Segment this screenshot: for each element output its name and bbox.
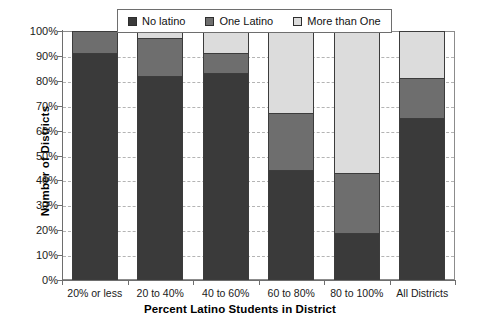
x-axis-tick-label: 40 to 60% [202, 287, 249, 299]
bar-segment[interactable] [399, 31, 445, 78]
bar-segment[interactable] [268, 170, 314, 280]
bar-segment[interactable] [72, 31, 118, 53]
y-axis-tick-label: 100% [2, 26, 58, 37]
bar-slot [324, 31, 390, 280]
legend-item[interactable]: More than One [293, 16, 380, 27]
bar-segment[interactable] [137, 76, 183, 280]
bars-container [62, 31, 455, 280]
bar-slot [62, 31, 128, 280]
bar-segment[interactable] [203, 31, 249, 53]
x-axis-tick-mark [193, 280, 194, 285]
legend-label: One Latino [219, 16, 273, 27]
x-axis-tick-mark [455, 280, 456, 285]
bar-segment[interactable] [268, 113, 314, 170]
stacked-bar-chart: Number of Districts 0%10%20%30%40%50%60%… [0, 0, 480, 322]
legend-swatch-icon [205, 17, 214, 26]
bar-segment[interactable] [399, 118, 445, 280]
y-axis-tick-label: 90% [2, 50, 58, 61]
stacked-bar[interactable] [203, 31, 249, 280]
legend-swatch-icon [293, 17, 302, 26]
x-axis-title: Percent Latino Students in District [0, 303, 480, 315]
y-axis-tick-label: 50% [2, 150, 58, 161]
bar-segment[interactable] [72, 53, 118, 280]
y-axis-tick-label: 40% [2, 175, 58, 186]
y-axis-tick-label: 10% [2, 250, 58, 261]
bar-slot [259, 31, 325, 280]
x-axis-tick-mark [324, 280, 325, 285]
x-axis-tick-mark [128, 280, 129, 285]
bar-slot [390, 31, 456, 280]
bar-segment[interactable] [334, 233, 380, 280]
x-axis-tick-mark [390, 280, 391, 285]
legend-label: No latino [142, 16, 185, 27]
bar-slot [128, 31, 194, 280]
stacked-bar[interactable] [72, 31, 118, 280]
y-axis-tick-label: 70% [2, 100, 58, 111]
bar-segment[interactable] [268, 31, 314, 113]
legend-label: More than One [307, 16, 380, 27]
y-axis-tick-label: 30% [2, 200, 58, 211]
legend-item[interactable]: One Latino [205, 16, 273, 27]
y-axis-tick-label: 0% [2, 275, 58, 286]
x-axis-tick-label: All Districts [396, 287, 448, 299]
x-axis-tick-mark [62, 280, 63, 285]
bar-segment[interactable] [203, 53, 249, 73]
bar-segment[interactable] [334, 31, 380, 173]
y-axis-tick-label: 60% [2, 125, 58, 136]
bar-segment[interactable] [399, 78, 445, 118]
legend-item[interactable]: No latino [128, 16, 185, 27]
y-axis-ticks: 0%10%20%30%40%50%60%70%80%90%100% [0, 0, 58, 322]
y-axis-tick-label: 80% [2, 75, 58, 86]
chart-legend: No latinoOne LatinoMore than One [117, 9, 392, 33]
bar-segment[interactable] [203, 73, 249, 280]
x-axis-tick-label: 80 to 100% [330, 287, 383, 299]
bar-slot [193, 31, 259, 280]
x-axis-tick-label: 20% or less [67, 287, 122, 299]
legend-swatch-icon [128, 17, 137, 26]
x-axis-tick-mark [259, 280, 260, 285]
bar-segment[interactable] [334, 173, 380, 233]
y-axis-tick-label: 20% [2, 225, 58, 236]
stacked-bar[interactable] [399, 31, 445, 280]
bar-segment[interactable] [137, 38, 183, 75]
stacked-bar[interactable] [268, 31, 314, 280]
x-axis-tick-label: 60 to 80% [268, 287, 315, 299]
x-axis-tick-label: 20 to 40% [137, 287, 184, 299]
stacked-bar[interactable] [137, 31, 183, 280]
stacked-bar[interactable] [334, 31, 380, 280]
